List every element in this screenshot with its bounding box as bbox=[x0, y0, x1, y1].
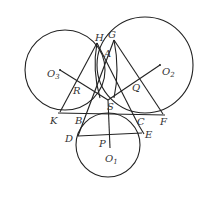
label-f: F bbox=[159, 116, 168, 127]
label-c: C bbox=[137, 116, 145, 127]
point-o2 bbox=[159, 64, 161, 66]
label-r: R bbox=[72, 85, 81, 96]
label-q: Q bbox=[132, 82, 140, 93]
label-o1: O1 bbox=[105, 153, 118, 166]
label-p: P bbox=[98, 138, 106, 149]
label-b: B bbox=[74, 115, 82, 126]
label-h: H bbox=[94, 32, 104, 43]
point-o3 bbox=[59, 69, 61, 71]
label-e: E bbox=[144, 129, 153, 140]
label-a: A bbox=[103, 48, 111, 59]
label-d: D bbox=[64, 133, 73, 144]
arc-right-inner bbox=[114, 40, 117, 98]
geometry-diagram: H G A O3 O2 O1 R Q S K B C F D E P bbox=[0, 0, 224, 200]
circle-o3 bbox=[25, 30, 105, 110]
label-k: K bbox=[49, 115, 58, 126]
line-gf bbox=[114, 40, 163, 114]
label-o3: O3 bbox=[47, 68, 60, 81]
label-g: G bbox=[108, 29, 116, 40]
label-s: S bbox=[107, 101, 114, 112]
circle-o1 bbox=[76, 113, 140, 177]
label-o2: O2 bbox=[162, 66, 175, 79]
